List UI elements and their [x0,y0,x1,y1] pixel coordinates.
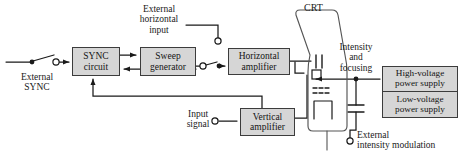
external-horizontal-input-label: External horizontal input [130,4,188,35]
external-horizontal-input-lead [186,25,218,38]
block-label-line1: Horizontal [239,51,280,61]
vertical-feedback-to-sync-circuit [93,79,262,108]
crt-label: CRT [304,3,323,14]
crt-oscilloscope-block-diagram: SYNC circuit Sweep generator Horizontal … [0,0,464,164]
block-vertical-amplifier[interactable]: Vertical amplifier [240,108,295,136]
block-label-line1: Sweep [155,51,180,61]
block-high-voltage-power-supply[interactable]: High-voltage power supply [382,66,458,92]
block-horizontal-amplifier[interactable]: Horizontal amplifier [228,48,290,75]
block-label-line2: power supply [395,79,445,89]
input-signal-label: Input signal [183,109,213,130]
block-label-line2: amplifier [250,122,285,132]
sweep-switch-filled-contact [217,64,222,69]
crt-vertical-plate [312,70,321,79]
intensity-and-focusing-label: Intensity and focusing [333,42,379,73]
crt-plate-feed [295,62,304,73]
block-sync-circuit[interactable]: SYNC circuit [72,47,120,76]
external-sync-terminal [53,59,59,65]
external-sync-switch-lever [33,55,54,61]
block-low-voltage-power-supply[interactable]: Low-voltage power supply [382,92,458,118]
block-label-line1: Vertical [253,112,283,122]
block-label-line2: generator [150,62,186,72]
external-sync-label: External SYNC [10,72,64,93]
block-label-line2: power supply [395,105,445,115]
intensity-junction-dot [354,77,359,82]
block-label-line1: SYNC [83,51,108,61]
external-horizontal-input-terminal [215,38,221,44]
external-intensity-modulation-label: External intensity modulation [357,130,435,151]
external-sync-pivot-dot [30,60,35,65]
external-intensity-lead [350,112,356,138]
sweep-switch-open-contact [200,63,206,69]
block-label-line2: circuit [84,62,108,72]
vertical-amplifier-to-crt [295,75,307,118]
external-intensity-terminal [347,138,353,144]
block-label-line2: amplifier [242,62,277,72]
block-sweep-generator[interactable]: Sweep generator [140,47,196,76]
crt-cathode-heater [314,101,332,119]
sweep-switch-lever [206,62,217,65]
